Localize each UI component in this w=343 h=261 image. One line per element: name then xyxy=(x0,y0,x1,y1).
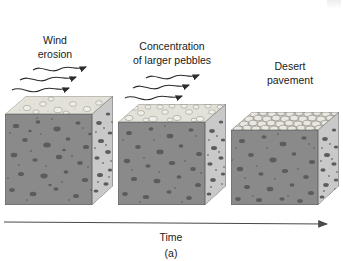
wind-arrow-icon xyxy=(146,75,199,79)
scan-artifact xyxy=(327,0,341,9)
stage-2-wind-arrows xyxy=(125,75,199,100)
stage-2-block xyxy=(118,104,226,205)
time-axis-label: Time xyxy=(160,231,183,243)
stage-1-label-line2: erosion xyxy=(38,48,73,60)
stage-3-group: Desert pavement xyxy=(230,60,339,205)
stage-3-label-line1: Desert xyxy=(275,60,306,72)
stage-3-front-face xyxy=(231,130,318,205)
wind-arrow-icon xyxy=(33,67,86,71)
stage-2-group: Concentration of larger pebbles xyxy=(118,40,226,205)
wind-arrow-icon xyxy=(133,85,189,89)
wind-arrow-icon xyxy=(12,88,69,92)
stage-2-label-line1: Concentration xyxy=(139,40,205,52)
stage-1-group: Wind erosion xyxy=(5,34,113,205)
stage-2-front-face xyxy=(118,122,205,205)
stage-2-label-line2: of larger pebbles xyxy=(133,54,211,66)
desert-pavement-figure: Wind erosion xyxy=(0,0,343,261)
stage-1-wind-arrows xyxy=(12,67,86,92)
wind-arrow-icon xyxy=(125,96,182,100)
stage-3-block xyxy=(230,110,339,205)
stage-1-label-line1: Wind xyxy=(43,34,67,46)
time-axis-line xyxy=(4,222,327,224)
figure-caption: (a) xyxy=(165,247,178,259)
stage-1-front-face xyxy=(5,114,92,205)
time-axis: Time (a) xyxy=(4,222,327,259)
figure-svg: Wind erosion xyxy=(0,0,343,261)
stage-3-label-line2: pavement xyxy=(267,74,313,86)
stage-1-block xyxy=(5,96,113,205)
wind-arrow-icon xyxy=(20,77,76,81)
stage-1-side-face xyxy=(92,96,113,205)
